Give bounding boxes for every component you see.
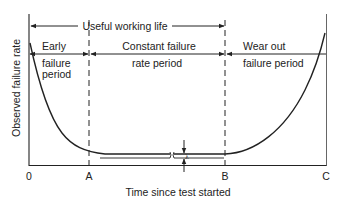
early-period-label-1: Early: [42, 40, 67, 52]
wearout-period-label-2: failure period: [243, 57, 304, 69]
x-axis-label: Time since test started: [125, 186, 230, 198]
constant-period-label-1: Constant failure: [122, 40, 196, 52]
axis-break-symbol: [170, 152, 174, 158]
x-tick-a: A: [85, 170, 92, 182]
bathtub-curve-diagram: Useful working life Early failure period…: [0, 0, 342, 211]
x-tick-c: C: [322, 170, 330, 182]
useful-life-label: Useful working life: [82, 20, 167, 32]
constant-period-label-2: rate period: [132, 57, 182, 69]
y-axis-label: Observed failure rate: [10, 39, 22, 137]
x-tick-0: 0: [26, 170, 32, 182]
x-tick-b: B: [221, 170, 228, 182]
early-period-label-3: period: [42, 68, 71, 80]
lambda-symbol: λ: [185, 153, 189, 160]
wearout-period-label-1: Wear out: [243, 40, 285, 52]
